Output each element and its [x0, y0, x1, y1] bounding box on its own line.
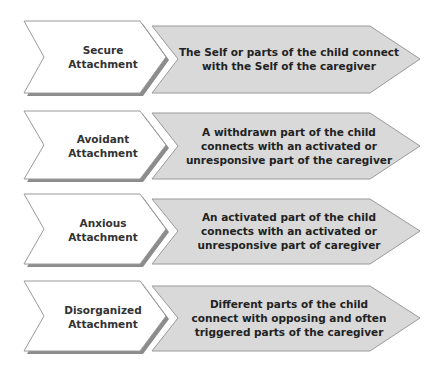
label-line: Secure [44, 43, 162, 57]
desc-line: An activated part of the child [178, 210, 400, 224]
desc-line: connects with an activated or [178, 139, 400, 153]
attachment-label: Secure Attachment [44, 43, 162, 71]
attachment-description: An activated part of the child connects … [178, 210, 400, 252]
desc-line: The Self or parts of the child connect [178, 45, 400, 59]
desc-line: Different parts of the child [178, 297, 400, 311]
label-line: Attachment [44, 230, 162, 244]
row-secure: Secure Attachment The Self or parts of t… [0, 18, 443, 98]
attachment-description: The Self or parts of the child connect w… [178, 45, 400, 73]
desc-line: with the Self of the caregiver [178, 59, 400, 73]
label-line: Avoidant [44, 132, 162, 146]
attachment-description: A withdrawn part of the child connects w… [178, 125, 400, 167]
label-line: Attachment [44, 57, 162, 71]
desc-line: connects with an activated or [178, 224, 400, 238]
row-avoidant: Avoidant Attachment A withdrawn part of … [0, 108, 443, 188]
desc-line: triggered parts of the caregiver [178, 325, 400, 339]
attachment-description: Different parts of the child connect wit… [178, 297, 400, 339]
desc-line: unresponsive part of caregiver [178, 238, 400, 252]
attachment-label: Avoidant Attachment [44, 132, 162, 160]
row-anxious: Anxious Attachment An activated part of … [0, 191, 443, 271]
desc-line: connect with opposing and often [178, 311, 400, 325]
desc-line: unresponsive part of the caregiver [178, 153, 400, 167]
label-line: Attachment [44, 146, 162, 160]
attachment-label: Anxious Attachment [44, 216, 162, 244]
row-disorganized: Disorganized Attachment Different parts … [0, 278, 443, 358]
attachment-label: Disorganized Attachment [44, 303, 162, 331]
label-line: Anxious [44, 216, 162, 230]
label-line: Disorganized [44, 303, 162, 317]
desc-line: A withdrawn part of the child [178, 125, 400, 139]
label-line: Attachment [44, 317, 162, 331]
